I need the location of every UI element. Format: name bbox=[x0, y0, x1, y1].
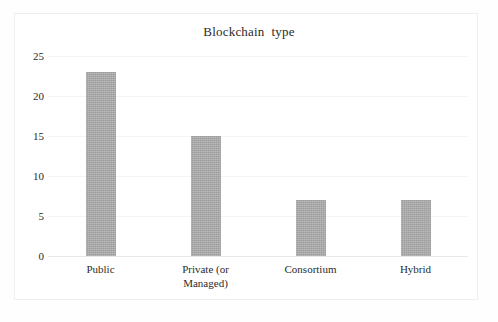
y-axis-tick-0: 0 bbox=[14, 250, 48, 262]
bar-consortium bbox=[296, 200, 326, 256]
y-axis-tick-20: 20 bbox=[14, 90, 48, 102]
x-axis-label-private-or-managed: Private (orManaged) bbox=[153, 262, 258, 290]
x-axis-label-line: Consortium bbox=[285, 263, 337, 275]
axis-baseline bbox=[48, 256, 468, 257]
x-axis-label-line: Managed) bbox=[153, 276, 258, 290]
x-axis-label-hybrid: Hybrid bbox=[363, 262, 468, 276]
bar-public bbox=[86, 72, 116, 256]
x-axis-label-consortium: Consortium bbox=[258, 262, 363, 276]
y-axis-tick-labels: 0510152025 bbox=[14, 56, 48, 256]
x-axis-label-line: Hybrid bbox=[400, 263, 431, 275]
y-axis-tick-5: 5 bbox=[14, 210, 48, 222]
x-axis-label-line: Private (or bbox=[182, 263, 229, 275]
chart-figure: Blockchain type 0510152025 PublicPrivate… bbox=[0, 0, 498, 322]
x-axis-label-line: Public bbox=[86, 263, 114, 275]
plot-area bbox=[48, 56, 468, 256]
y-axis-tick-15: 15 bbox=[14, 130, 48, 142]
chart-title: Blockchain type bbox=[0, 24, 498, 40]
y-axis-tick-25: 25 bbox=[14, 50, 48, 62]
bar-private-or-managed bbox=[191, 136, 221, 256]
bar-hybrid bbox=[401, 200, 431, 256]
y-axis-tick-10: 10 bbox=[14, 170, 48, 182]
x-axis-category-labels: PublicPrivate (orManaged)ConsortiumHybri… bbox=[48, 262, 468, 298]
bar-series bbox=[48, 56, 468, 256]
x-axis-label-public: Public bbox=[48, 262, 153, 276]
